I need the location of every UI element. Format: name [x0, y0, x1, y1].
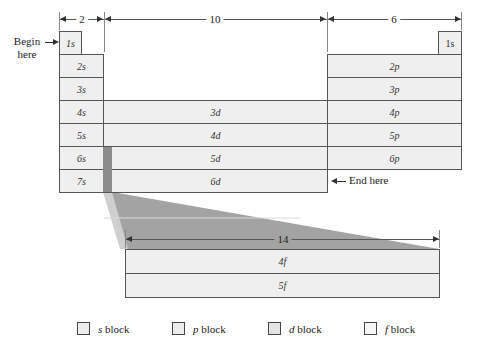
p-width-label: 6: [388, 13, 400, 25]
cell-3p: 3p: [327, 77, 462, 101]
cell-4s: 4s: [59, 100, 104, 124]
f-block-placeholder-strip: [103, 147, 112, 192]
begin-line1: Begin: [7, 35, 47, 48]
p-block-swatch: [172, 322, 185, 335]
begin-line2: here: [7, 48, 47, 61]
begin-here-label: Begin here: [7, 35, 47, 61]
cell-7s: 7s: [59, 169, 104, 193]
end-arrow-shaft: [336, 181, 346, 182]
legend-f-block: f block: [364, 322, 415, 335]
cell-6s: 6s: [59, 146, 104, 170]
cell-3s: 3s: [59, 77, 104, 101]
legend-d-block: d block: [268, 322, 322, 335]
legend-s-label: s block: [98, 323, 129, 335]
cell-5d: 5d: [103, 146, 328, 170]
end-here-label: End here: [349, 174, 388, 186]
legend-p-label: p block: [193, 323, 226, 335]
cell-2s: 2s: [59, 54, 104, 78]
cell-he-1s: 1s: [438, 31, 462, 55]
cell-4f: 4f: [125, 249, 440, 274]
cell-5p: 5p: [327, 123, 462, 147]
cell-3d: 3d: [103, 100, 328, 124]
cell-4p: 4p: [327, 100, 462, 124]
cell-4d: 4d: [103, 123, 328, 147]
d-block-swatch: [268, 322, 281, 335]
f-width-label: 14: [275, 233, 292, 245]
d-width-label: 10: [207, 13, 224, 25]
cell-6d: 6d: [103, 169, 328, 193]
legend-f-label: f block: [385, 323, 415, 335]
s-block-swatch: [77, 322, 90, 335]
f-block-swatch: [364, 322, 377, 335]
cell-5s: 5s: [59, 123, 104, 147]
s-width-label: 2: [76, 13, 88, 25]
legend-d-label: d block: [289, 323, 322, 335]
legend-p-block: p block: [172, 322, 226, 335]
cell-1s: 1s: [59, 31, 82, 55]
cell-5f: 5f: [125, 273, 440, 298]
cell-6p: 6p: [327, 146, 462, 170]
cell-2p: 2p: [327, 54, 462, 78]
legend-s-block: s block: [77, 322, 129, 335]
